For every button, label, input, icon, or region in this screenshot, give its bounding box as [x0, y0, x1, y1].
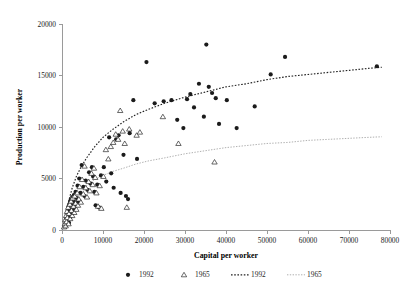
trend-line-1965: [64, 137, 381, 225]
data-point-1992: [375, 64, 379, 68]
data-point-1992: [126, 197, 130, 201]
data-point-1992: [121, 153, 125, 157]
data-point-1992: [192, 105, 196, 109]
scatter-plot: 0500010000150002000001000020000300004000…: [0, 0, 419, 297]
data-point-1965: [176, 141, 181, 146]
data-point-1992: [169, 98, 173, 102]
data-point-1965: [124, 205, 129, 210]
data-point-1992: [104, 179, 108, 183]
data-point-1992: [107, 135, 111, 139]
data-point-1992: [153, 101, 157, 105]
data-point-1992: [253, 104, 257, 108]
data-point-1992: [202, 115, 206, 119]
data-point-1992: [131, 98, 135, 102]
data-point-1992: [214, 96, 218, 100]
data-point-1992: [225, 98, 229, 102]
x-tick-label: 10000: [94, 236, 113, 245]
data-point-1965: [122, 141, 127, 146]
x-tick-label: 80000: [381, 236, 400, 245]
data-point-1965: [120, 129, 125, 134]
data-point-1965: [103, 147, 108, 152]
data-point-1965: [127, 127, 132, 132]
x-axis-title: Capital per worker: [194, 251, 258, 260]
legend-label: 1992: [251, 270, 266, 279]
y-axis-title: Production per worker: [15, 88, 24, 165]
data-point-1992: [112, 186, 116, 190]
x-tick-label: 20000: [135, 236, 154, 245]
y-tick-label: 10000: [38, 123, 57, 132]
data-point-1992: [197, 82, 201, 86]
data-point-1992: [175, 118, 179, 122]
data-point-1992: [109, 171, 113, 175]
x-tick-label: 40000: [217, 236, 236, 245]
x-tick-label: 50000: [258, 236, 277, 245]
data-point-1992: [207, 85, 211, 89]
data-point-1965: [118, 108, 123, 113]
data-point-1992: [217, 122, 221, 126]
x-tick-label: 30000: [176, 236, 195, 245]
data-point-1992: [188, 92, 192, 96]
x-tick-label: 60000: [299, 236, 318, 245]
y-tick-label: 0: [52, 226, 56, 235]
data-point-1965: [160, 114, 165, 119]
chart-container: 0500010000150002000001000020000300004000…: [0, 0, 419, 297]
data-point-1992: [185, 97, 189, 101]
legend-label: 1965: [307, 270, 322, 279]
legend-item-0[interactable]: 1992: [126, 270, 154, 279]
data-point-1992: [181, 126, 185, 130]
legend-item-1[interactable]: 1965: [181, 270, 210, 279]
series-1992: [63, 43, 379, 228]
data-point-1965: [106, 156, 111, 161]
legend-item-2[interactable]: 1992: [231, 270, 266, 279]
y-tick-label: 20000: [38, 20, 57, 29]
series-1965: [61, 108, 217, 229]
data-point-1992: [210, 91, 214, 95]
legend-label: 1965: [195, 270, 210, 279]
data-point-1992: [235, 126, 239, 130]
data-point-1965: [137, 130, 142, 135]
legend-marker-filled-circle: [126, 273, 130, 277]
legend-item-3[interactable]: 1965: [287, 270, 322, 279]
x-tick-label: 70000: [340, 236, 359, 245]
data-point-1992: [135, 157, 139, 161]
data-point-1992: [102, 165, 106, 169]
legend-label: 1992: [139, 270, 154, 279]
y-tick-label: 15000: [38, 71, 57, 80]
data-point-1992: [128, 131, 132, 135]
x-tick-label: 0: [60, 236, 64, 245]
data-point-1992: [204, 43, 208, 47]
data-point-1992: [144, 60, 148, 64]
legend-marker-open-triangle: [181, 272, 186, 277]
data-point-1965: [212, 160, 217, 165]
data-point-1992: [119, 191, 123, 195]
data-point-1992: [269, 72, 273, 76]
data-point-1992: [162, 99, 166, 103]
y-tick-label: 5000: [41, 174, 56, 183]
data-point-1992: [283, 55, 287, 59]
